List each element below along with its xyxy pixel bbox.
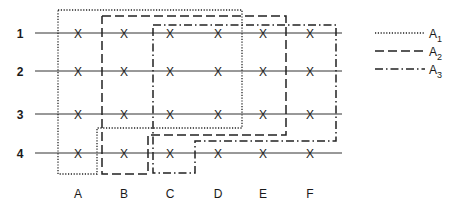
column-label: C [166, 187, 175, 201]
x-marker: X [259, 65, 267, 79]
region-outlines [58, 10, 336, 174]
x-marker: X [120, 147, 128, 161]
row-labels: 1234 [17, 27, 24, 161]
column-label: A [74, 187, 82, 201]
x-marker: X [166, 147, 174, 161]
x-marker: X [74, 108, 82, 122]
x-marker: X [259, 108, 267, 122]
legend: A1A2A3 [375, 27, 442, 80]
x-marker: X [74, 147, 82, 161]
x-marker: X [120, 65, 128, 79]
row-label: 4 [17, 147, 24, 161]
x-marker: X [166, 65, 174, 79]
legend-label: A3 [429, 63, 442, 80]
grid-region-diagram: 1234 ABCDEF XXXXXXXXXXXXXXXXXXXXXXXX A1A… [0, 0, 461, 206]
x-marker: X [120, 108, 128, 122]
x-marker: X [214, 65, 222, 79]
x-marker: X [214, 147, 222, 161]
x-marker: X [74, 27, 82, 41]
column-label: B [120, 187, 128, 201]
x-marker: X [214, 27, 222, 41]
column-label: F [306, 187, 313, 201]
x-marker: X [74, 65, 82, 79]
row-lines [35, 33, 342, 153]
x-marker: X [306, 108, 314, 122]
legend-label: A2 [429, 45, 442, 62]
x-marker: X [166, 108, 174, 122]
column-label: D [214, 187, 223, 201]
row-label: 2 [17, 65, 24, 79]
x-marker: X [120, 27, 128, 41]
x-marker: X [166, 27, 174, 41]
x-marker: X [306, 27, 314, 41]
legend-label: A1 [429, 27, 442, 44]
x-marker: X [306, 147, 314, 161]
column-label: E [259, 187, 267, 201]
x-marker: X [214, 108, 222, 122]
x-marker: X [259, 27, 267, 41]
row-label: 1 [17, 27, 24, 41]
column-labels: ABCDEF [74, 187, 314, 201]
x-marker: X [259, 147, 267, 161]
x-marker: X [306, 65, 314, 79]
row-label: 3 [17, 108, 24, 122]
